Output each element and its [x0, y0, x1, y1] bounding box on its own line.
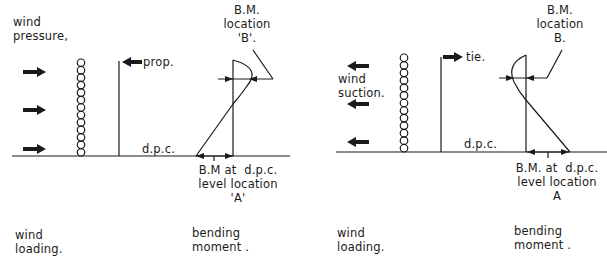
bm-location-a-label-right: B.M. at d.p.c. level location A	[507, 161, 607, 203]
caption-wind-loading-right: wind loading.	[337, 226, 385, 254]
brick-column-left	[77, 59, 84, 156]
wind-suction-arrow	[347, 137, 369, 147]
wind-pressure-arrow	[23, 105, 46, 115]
prop-arrow-icon	[122, 57, 142, 67]
wind-pressure-label: wind pressure,	[13, 15, 68, 43]
caption-bending-moment-left: bending moment .	[192, 226, 249, 254]
bm-location-a-label-left: B.M at d.p.c. level location 'A'	[188, 163, 288, 205]
wind-suction-arrow	[347, 61, 369, 71]
wind-pressure-arrow	[23, 144, 46, 154]
tie-label: tie.	[466, 50, 485, 64]
caption-bending-moment-right: bending moment .	[514, 224, 571, 252]
bm-b-leader-left	[253, 50, 273, 79]
bm-b-leader-right	[547, 50, 562, 78]
dpc-label-right: d.p.c.	[464, 137, 497, 151]
bm-location-b-label-left: B.M. location 'B'.	[212, 3, 282, 45]
wind-suction-arrow	[347, 99, 369, 109]
bm-curve-right	[512, 55, 570, 152]
wind-pressure-arrow	[23, 67, 46, 77]
caption-wind-loading-left: wind loading.	[15, 228, 63, 256]
bm-location-b-label-right: B.M. location B.	[525, 3, 595, 45]
dpc-label-left: d.p.c.	[142, 142, 175, 156]
bm-curve-left	[196, 60, 252, 156]
wind-suction-label: wind suction.	[338, 72, 385, 100]
prop-label: prop.	[143, 55, 174, 69]
tie-arrow-icon	[443, 52, 463, 62]
brick-column-right	[400, 54, 408, 152]
